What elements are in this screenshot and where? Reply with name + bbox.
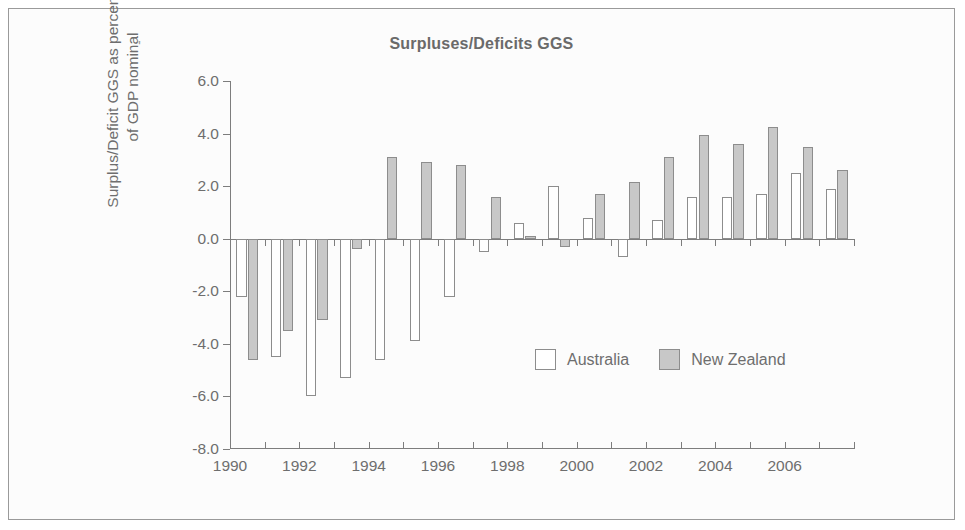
bar-au-1994 (375, 239, 385, 360)
x-tick (507, 239, 508, 246)
legend-label-australia: Australia (567, 351, 629, 369)
x-tick (299, 239, 300, 246)
x-tick (577, 239, 578, 246)
bar-nz-2003 (699, 135, 709, 239)
legend-swatch-australia-icon (535, 349, 556, 370)
bar-au-1997 (479, 239, 489, 252)
bar-nz-2007 (837, 170, 847, 238)
x-tick (473, 239, 474, 246)
x-tick-bottom-minor (577, 442, 578, 449)
legend-label-new-zealand: New Zealand (691, 351, 785, 369)
bar-nz-2000 (595, 194, 605, 239)
x-tick-bottom-minor (299, 442, 300, 449)
x-tick-label: 2000 (559, 457, 593, 475)
y-tick (223, 291, 230, 292)
x-tick (334, 239, 335, 246)
bar-au-2002 (652, 220, 662, 238)
x-tick (438, 239, 439, 246)
x-tick-label: 1996 (421, 457, 455, 475)
bar-au-2005 (756, 194, 766, 239)
bar-au-1999 (548, 186, 558, 239)
x-tick-label: 1990 (213, 457, 247, 475)
bar-au-1992 (306, 239, 316, 397)
x-tick-label: 2006 (767, 457, 801, 475)
y-tick (223, 186, 230, 187)
x-tick-bottom-minor (334, 442, 335, 449)
x-tick (542, 239, 543, 246)
bar-au-2003 (687, 197, 697, 239)
x-tick-bottom-minor (473, 442, 474, 449)
legend-entry-australia: Australia (535, 349, 629, 370)
y-tick-label: 6.0 (197, 72, 219, 90)
x-tick-label: 1992 (282, 457, 316, 475)
x-tick-bottom-minor (646, 442, 647, 449)
chart-figure: Surpluses/Deficits GGS ' Surplus/Deficit… (8, 8, 955, 520)
bar-nz-1990 (248, 239, 258, 360)
y-axis-title: Surplus/Deficit GGS as percentage of GDP… (103, 0, 143, 263)
bar-au-1995 (410, 239, 420, 342)
bar-au-2000 (583, 218, 593, 239)
y-tick-label: -6.0 (192, 387, 219, 405)
bar-nz-1993 (352, 239, 362, 250)
y-tick (223, 396, 230, 397)
bar-nz-1991 (283, 239, 293, 331)
legend-swatch-new-zealand-icon (659, 349, 680, 370)
y-tick-label: 2.0 (197, 177, 219, 195)
x-tick-bottom-minor (715, 442, 716, 449)
x-tick-label: 1998 (490, 457, 524, 475)
y-tick (223, 134, 230, 135)
x-tick (854, 239, 855, 246)
bar-nz-1994 (387, 157, 397, 238)
bar-nz-1997 (491, 197, 501, 239)
x-tick-bottom-minor (265, 442, 266, 449)
x-tick-label: 2004 (698, 457, 732, 475)
y-tick-label: -8.0 (192, 440, 219, 458)
x-tick (715, 239, 716, 246)
x-tick (611, 239, 612, 246)
y-axis-line (230, 81, 231, 449)
bar-au-2001 (618, 239, 628, 257)
bar-au-2006 (791, 173, 801, 239)
x-tick (819, 239, 820, 246)
bar-nz-2006 (803, 147, 813, 239)
x-tick-bottom-minor (403, 442, 404, 449)
x-tick (681, 239, 682, 246)
bar-au-1993 (340, 239, 350, 378)
x-tick (750, 239, 751, 246)
bar-nz-2004 (733, 144, 743, 239)
bar-au-1990 (236, 239, 246, 297)
x-tick (369, 239, 370, 246)
bar-au-1998 (514, 223, 524, 239)
x-tick-bottom-minor (230, 442, 231, 449)
bar-nz-2002 (664, 157, 674, 238)
x-tick-bottom-minor (542, 442, 543, 449)
x-tick-bottom-minor (438, 442, 439, 449)
x-tick (265, 239, 266, 246)
bar-nz-1996 (456, 165, 466, 239)
y-tick (223, 81, 230, 82)
bar-au-1996 (444, 239, 454, 297)
x-tick-bottom-minor (750, 442, 751, 449)
x-tick (230, 239, 231, 246)
chart-title: Surpluses/Deficits GGS (9, 35, 954, 53)
plot-area: 6.04.02.00.0-2.0-4.0-6.0-8.0 19901992199… (230, 81, 854, 449)
bar-nz-2005 (768, 127, 778, 239)
y-tick (223, 449, 230, 450)
x-tick (646, 239, 647, 246)
bar-nz-2001 (629, 182, 639, 239)
x-tick-bottom-minor (369, 442, 370, 449)
bar-nz-1998 (525, 236, 535, 239)
x-tick-label: 1994 (351, 457, 385, 475)
x-tick-bottom-minor (611, 442, 612, 449)
y-tick-label: -2.0 (192, 282, 219, 300)
x-tick-label: 2002 (629, 457, 663, 475)
x-tick-bottom-minor (854, 442, 855, 449)
x-tick-bottom-minor (785, 442, 786, 449)
bar-nz-1992 (317, 239, 327, 320)
bar-au-2004 (722, 197, 732, 239)
x-tick-bottom-minor (819, 442, 820, 449)
y-tick (223, 239, 230, 240)
bar-nz-1999 (560, 239, 570, 247)
x-tick (785, 239, 786, 246)
y-tick-label: -4.0 (192, 335, 219, 353)
